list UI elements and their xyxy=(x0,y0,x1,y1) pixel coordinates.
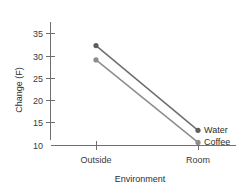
line-chart-figure: 35 30 25 20 15 10 Change (F) Outside Roo… xyxy=(0,0,241,192)
series-line-coffee xyxy=(96,60,198,142)
y-tick-label-25: 25 xyxy=(33,74,43,84)
y-tick-label-10: 10 xyxy=(33,141,43,151)
y-axis-title: Change (F) xyxy=(14,67,24,113)
data-point-coffee-room xyxy=(195,140,200,145)
y-tick-label-20: 20 xyxy=(33,96,43,106)
series-label-coffee: Coffee xyxy=(204,137,230,147)
y-tick-label-15: 15 xyxy=(33,118,43,128)
series-line-water xyxy=(96,46,198,131)
y-tick-label-30: 30 xyxy=(33,52,43,62)
data-point-coffee-outside xyxy=(93,57,98,62)
data-point-water-room xyxy=(195,128,200,133)
x-tick-label-room: Room xyxy=(186,155,210,165)
x-axis-title: Environment xyxy=(115,174,166,184)
series-label-water: Water xyxy=(204,125,228,135)
plot-area: 35 30 25 20 15 10 Change (F) Outside Roo… xyxy=(0,0,241,192)
data-point-water-outside xyxy=(93,43,98,48)
y-tick-label-35: 35 xyxy=(33,29,43,39)
x-tick-label-outside: Outside xyxy=(80,155,111,165)
